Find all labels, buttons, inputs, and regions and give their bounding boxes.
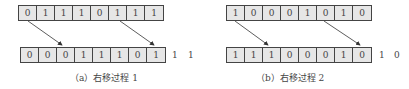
bit-cell: 1 (145, 6, 163, 20)
arrow-a-left (28, 21, 62, 45)
overflow-bit: 1 (379, 48, 385, 62)
bit-cell: 1 (227, 48, 245, 62)
bit-cell: 1 (147, 48, 165, 62)
bit-cell: 1 (93, 48, 111, 62)
bit-cell: 0 (19, 6, 37, 20)
bit-cell: 1 (227, 6, 245, 20)
bit-cell: 0 (129, 48, 147, 62)
panel-b-bottom-register: 1 1 1 0 0 0 1 0 (226, 47, 372, 63)
bit-cell: 1 (75, 48, 93, 62)
bit-cell: 0 (353, 6, 371, 20)
bit-cell: 0 (263, 6, 281, 20)
bit-cell: 1 (111, 48, 129, 62)
caption-a: （a）右移过程 1 (70, 71, 138, 84)
bit-cell: 1 (335, 6, 353, 20)
bit-cell: 0 (245, 6, 263, 20)
bit-cell: 0 (299, 48, 317, 62)
arrow-b-left (235, 21, 268, 45)
overflow-bit: 1 (188, 48, 194, 62)
bit-cell: 0 (281, 6, 299, 20)
bit-cell: 1 (127, 6, 145, 20)
bit-cell: 1 (263, 48, 281, 62)
bit-cell: 0 (39, 48, 57, 62)
bit-cell: 0 (281, 48, 299, 62)
arrow-a-right (120, 21, 154, 45)
bit-cell: 1 (335, 48, 353, 62)
bit-cell: 1 (245, 48, 263, 62)
caption-b: （b）右移过程 2 (256, 71, 324, 84)
bit-cell: 1 (299, 6, 317, 20)
overflow-bit: 0 (394, 48, 400, 62)
bit-cell: 0 (353, 48, 371, 62)
bit-cell: 1 (109, 6, 127, 20)
bit-cell: 1 (37, 6, 55, 20)
arrow-b-right (324, 21, 360, 45)
panel-a-top-register: 0 1 1 1 0 1 1 1 (18, 5, 164, 21)
bit-cell: 0 (91, 6, 109, 20)
bit-cell: 0 (317, 6, 335, 20)
bit-cell: 1 (73, 6, 91, 20)
bit-cell: 0 (317, 48, 335, 62)
bit-cell: 0 (57, 48, 75, 62)
overflow-bit: 1 (172, 48, 178, 62)
bit-cell: 0 (21, 48, 39, 62)
bit-cell: 1 (55, 6, 73, 20)
panel-a-bottom-register: 0 0 0 1 1 1 0 1 (20, 47, 166, 63)
panel-b-top-register: 1 0 0 0 1 0 1 0 (226, 5, 372, 21)
